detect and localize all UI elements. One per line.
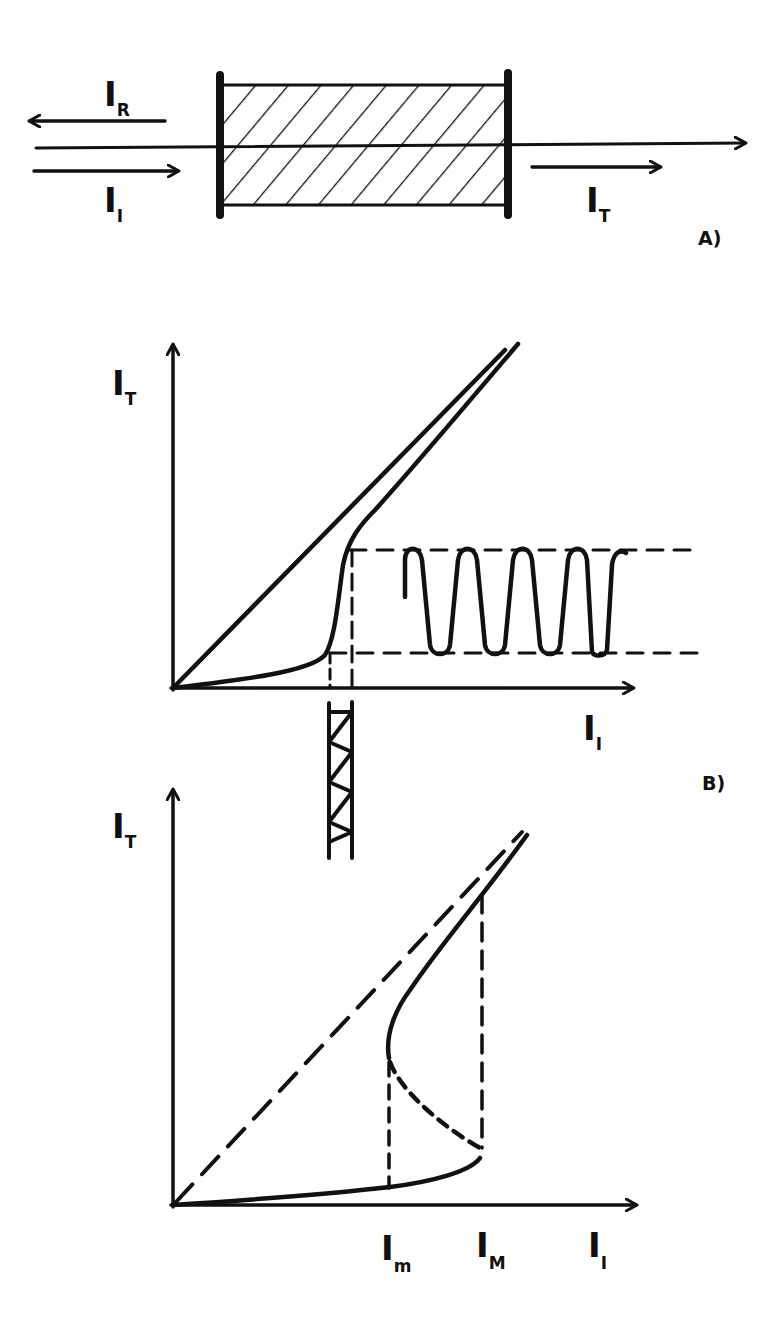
panel-b-tag: B) [702, 772, 725, 794]
panel-c: IT Im IM II [112, 790, 636, 1276]
unstable-middle-branch [390, 1062, 480, 1148]
label-transmitted: IT [586, 180, 611, 226]
dashed-linear-line [176, 832, 522, 1202]
label-incident: II [104, 180, 123, 226]
linear-transmission-line [173, 350, 505, 688]
label-reflected: IR [104, 74, 130, 120]
optical-bistability-figure: IR II IT A) IT II B) [0, 0, 781, 1333]
threshold-label-im: Im [381, 1228, 411, 1276]
input-modulation-wave [329, 702, 352, 858]
panel-b: IT II B) [112, 344, 725, 858]
panel-a-tag: A) [698, 227, 721, 249]
output-modulation-wave [405, 549, 626, 656]
panel-a: IR II IT A) [30, 73, 745, 249]
y-axis-label: IT [112, 806, 137, 852]
lower-stable-branch [173, 1158, 480, 1205]
x-axis-label: II [583, 708, 602, 754]
threshold-label-iM: IM [476, 1225, 506, 1273]
x-axis-label: II [588, 1225, 607, 1273]
upper-stable-branch [388, 835, 527, 1058]
y-axis-label: IT [112, 363, 137, 409]
